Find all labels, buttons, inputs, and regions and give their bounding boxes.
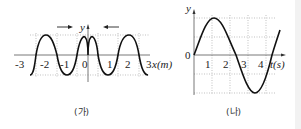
x-label-ga: x(m) <box>151 58 172 71</box>
tick-label: 1 <box>205 58 211 70</box>
tick-label: -2 <box>40 58 49 70</box>
figure-ga: y -3 -2 -1 0 1 2 3 x(m) (가) <box>14 21 172 117</box>
y-axis-arrow-icon <box>193 9 196 14</box>
tick-label: 0 <box>82 58 88 70</box>
tick-label: 1 <box>107 58 113 70</box>
figure-na: y 0 1 2 3 4 t(s) (나) <box>185 2 286 117</box>
tick-label: 2 <box>125 58 131 70</box>
tick-label: 2 <box>223 58 229 70</box>
origin-label: 0 <box>185 49 191 61</box>
caption-na: (나) <box>226 107 241 117</box>
y-label-ga: y <box>79 21 85 33</box>
tick-label: 3 <box>241 58 247 70</box>
tick-label: -3 <box>15 58 25 70</box>
y-axis-arrow-icon <box>87 24 90 29</box>
oscillation-curve-na <box>194 18 280 93</box>
t-axis-arrow-icon <box>281 54 286 57</box>
caption-ga: (가) <box>74 107 89 117</box>
tick-label: 4 <box>258 58 264 70</box>
figure-canvas: y -3 -2 -1 0 1 2 3 x(m) (가) y 0 1 2 3 4 <box>0 0 301 129</box>
y-label-na: y <box>185 2 191 14</box>
right-arrow-icon <box>57 25 73 29</box>
tick-label: -1 <box>60 58 69 70</box>
left-arrow-icon <box>103 25 119 29</box>
x-label-na: t(s) <box>270 58 285 71</box>
